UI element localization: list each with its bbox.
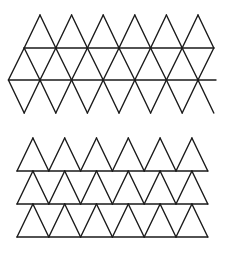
edge — [198, 15, 214, 48]
edge — [112, 204, 128, 237]
edge — [192, 204, 208, 237]
edge — [72, 48, 88, 80]
edge — [24, 15, 40, 48]
edge — [192, 171, 208, 204]
edge — [103, 80, 119, 113]
edge — [182, 15, 198, 48]
edge — [87, 80, 103, 113]
edge — [33, 138, 49, 171]
edge — [49, 138, 65, 171]
edge — [151, 48, 167, 80]
edge — [198, 48, 214, 80]
edge — [135, 15, 151, 48]
edge — [119, 15, 135, 48]
edge — [33, 171, 49, 204]
edge — [8, 48, 24, 80]
edge — [144, 204, 160, 237]
edge — [144, 138, 160, 171]
edge — [87, 15, 103, 48]
edge — [182, 80, 198, 113]
edge — [182, 48, 198, 80]
edge — [56, 15, 72, 48]
edge — [176, 171, 192, 204]
edge — [65, 138, 81, 171]
edge — [192, 138, 208, 171]
geometry-canvas — [0, 0, 229, 261]
edge — [81, 204, 97, 237]
edge — [87, 48, 103, 80]
edge — [24, 80, 40, 113]
edge — [128, 138, 144, 171]
edge — [65, 171, 81, 204]
edge — [128, 171, 144, 204]
edge — [97, 171, 113, 204]
edge — [151, 15, 167, 48]
edge — [40, 15, 56, 48]
edge — [135, 48, 151, 80]
edge — [56, 48, 72, 80]
triangular-lattice-figure — [8, 15, 216, 113]
stacked-triangles-figure — [17, 138, 208, 237]
edge — [81, 138, 97, 171]
edge — [65, 204, 81, 237]
edge — [40, 80, 56, 113]
edge — [198, 80, 214, 113]
edge — [72, 15, 88, 48]
edge — [166, 80, 182, 113]
edge — [24, 48, 40, 80]
edge — [160, 171, 176, 204]
edge — [119, 80, 135, 113]
edge — [176, 204, 192, 237]
edge — [128, 204, 144, 237]
edge — [17, 171, 33, 204]
edge — [112, 171, 128, 204]
edge — [72, 80, 88, 113]
edge — [160, 138, 176, 171]
edge — [97, 204, 113, 237]
edge — [81, 171, 97, 204]
edge — [97, 138, 113, 171]
edge — [33, 204, 49, 237]
edge — [103, 48, 119, 80]
edge — [144, 171, 160, 204]
edge — [17, 204, 33, 237]
edge — [176, 138, 192, 171]
edge — [166, 15, 182, 48]
edge — [119, 48, 135, 80]
edge — [49, 204, 65, 237]
edge — [112, 138, 128, 171]
edge — [151, 80, 167, 113]
edge — [160, 204, 176, 237]
edge — [166, 48, 182, 80]
edge — [56, 80, 72, 113]
edge — [103, 15, 119, 48]
edge — [17, 138, 33, 171]
edge — [8, 80, 24, 113]
edge — [40, 48, 56, 80]
edge — [135, 80, 151, 113]
edge — [49, 171, 65, 204]
